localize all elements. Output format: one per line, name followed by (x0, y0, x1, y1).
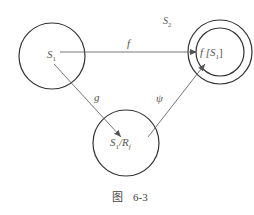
figure-caption-prefix: 图 (112, 191, 123, 203)
fs1-label: f [S1] (200, 46, 223, 61)
figure-caption-number: 6-3 (133, 191, 148, 203)
edge-f-label: f (127, 37, 132, 49)
s2-label: S2 (163, 15, 171, 28)
edge-psi-label: ψ (156, 92, 163, 104)
s1-label: S1 (47, 48, 57, 63)
edge-g-arrow (54, 64, 121, 137)
quotient-label: S1/Rf (110, 136, 132, 151)
diagram-canvas: S1 S2 f [S1] S1/Rf f g ψ 图 6-3 (0, 0, 254, 215)
edge-g-label: g (94, 91, 100, 103)
